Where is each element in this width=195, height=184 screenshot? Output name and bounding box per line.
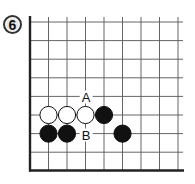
white-stone: [40, 106, 57, 123]
grid-lines: [29, 16, 184, 172]
black-stone: [58, 125, 75, 142]
go-board: [0, 0, 195, 184]
black-stone: [114, 125, 131, 142]
label-a: A: [80, 91, 93, 104]
white-stone: [58, 106, 75, 123]
black-stone: [95, 106, 112, 123]
label-b: B: [80, 129, 93, 142]
black-stone: [40, 125, 57, 142]
white-stone: [77, 106, 94, 123]
